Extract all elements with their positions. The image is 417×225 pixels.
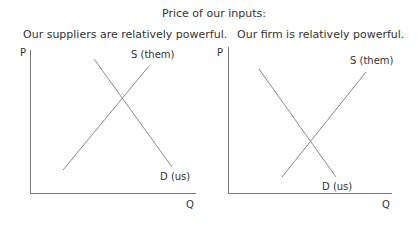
- right-demand-curve: [259, 69, 336, 177]
- right-supply-curve: [282, 72, 366, 177]
- diagram-lines: [0, 0, 417, 225]
- left-demand-curve: [94, 59, 172, 167]
